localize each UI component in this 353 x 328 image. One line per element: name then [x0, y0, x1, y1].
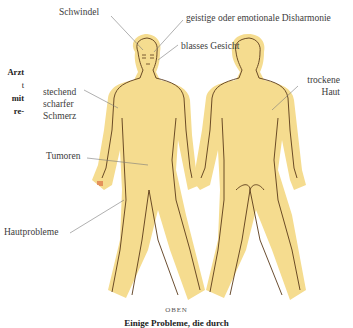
label-schwindel: Schwindel [59, 6, 99, 18]
leader-schwindel [111, 16, 143, 50]
leader-blasses-gesicht [158, 45, 178, 60]
label-blasses-gesicht: blasses Gesicht [181, 40, 239, 52]
back-body-figure [192, 34, 306, 300]
label-trockene-line2: Haut [300, 86, 340, 98]
label-stechend: stechend scharfer Schmerz [43, 86, 76, 122]
leader-hautprobleme [70, 200, 124, 233]
label-stechend-line1: stechend [43, 86, 76, 98]
label-trockene-line1: trockene [300, 74, 340, 86]
label-disharmonie: geistige oder emotionale Disharmonie [186, 12, 331, 24]
label-stechend-line2: scharfer [43, 98, 76, 110]
caption-title: Einige Probleme, die durch [0, 318, 353, 328]
leader-disharmonie [154, 20, 183, 52]
label-hautprobleme: Hautprobleme [4, 226, 58, 238]
label-trockene-haut: trockene Haut [300, 74, 340, 98]
front-body-figure [92, 34, 205, 300]
label-stechend-line3: Schmerz [43, 110, 76, 122]
caption-orientation: OBEN [0, 306, 353, 314]
back-body-silhouette [192, 34, 306, 300]
label-tumoren: Tumoren [46, 150, 81, 162]
front-body-silhouette [92, 34, 205, 300]
